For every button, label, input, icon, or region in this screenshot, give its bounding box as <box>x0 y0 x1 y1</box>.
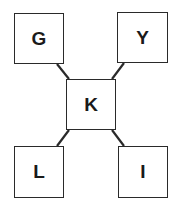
edge-k-i <box>112 130 124 146</box>
node-y-label: Y <box>136 27 149 49</box>
node-g: G <box>14 13 64 64</box>
node-l: L <box>14 146 64 198</box>
node-l-label: L <box>33 161 45 183</box>
node-y: Y <box>117 12 168 63</box>
node-g-label: G <box>32 28 47 50</box>
node-i: I <box>118 146 168 198</box>
node-i-label: I <box>140 161 145 183</box>
node-k-center: K <box>66 79 116 130</box>
edge-k-l <box>57 130 69 146</box>
edge-g-k <box>57 64 69 79</box>
node-k-label: K <box>84 94 98 116</box>
edge-y-k <box>112 63 124 79</box>
diagram-canvas: G Y K L I <box>0 0 176 206</box>
